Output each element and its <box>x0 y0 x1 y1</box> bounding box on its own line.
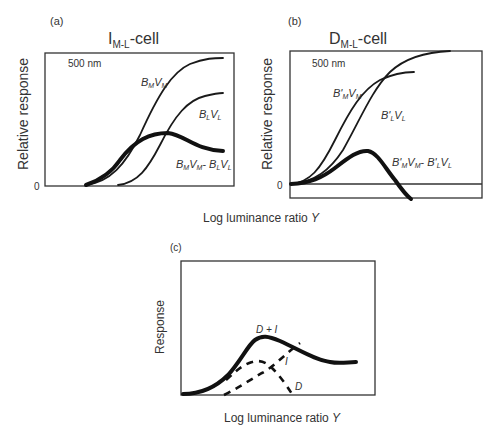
panel-b-annotation: 500 nm <box>312 58 345 69</box>
label-bm-vm: BMVM <box>141 76 168 89</box>
label-d: D <box>295 381 302 392</box>
panel-a-title: IM-L-cell <box>108 30 159 50</box>
panel-c-xlabel: Log luminance ratio Y <box>224 411 341 425</box>
label-d-plus-i: D + I <box>256 324 278 335</box>
panel-a-ytick-0: 0 <box>34 181 40 192</box>
label-bm-vm-minus-bl-vl: BMVM- BLVL <box>176 158 232 171</box>
shared-xlabel: Log luminance ratio Y <box>203 211 320 225</box>
panel-c-letter: (c) <box>170 242 182 253</box>
panel-c-ylabel: Response <box>153 300 167 354</box>
label-i: I <box>285 356 288 367</box>
panel-b-letter: (b) <box>288 15 301 27</box>
panel-a-annotation: 500 nm <box>68 58 101 69</box>
panel-a: (a) IM-L-cell 500 nm Relative response 0… <box>15 15 234 192</box>
panel-b: (b) DM-L-cell 500 nm Relative response 0… <box>259 15 482 199</box>
figure: (a) IM-L-cell 500 nm Relative response 0… <box>0 0 499 437</box>
panel-b-title: DM-L-cell <box>329 30 387 50</box>
panel-c: (c) Response D + I I D <box>153 242 375 395</box>
panel-a-ylabel: Relative response <box>15 58 31 170</box>
label-bl-vl: BLVL <box>199 108 222 121</box>
panel-a-letter: (a) <box>50 15 63 27</box>
panel-b-ytick-0: 0 <box>277 180 283 191</box>
panel-c-plot-frame <box>181 261 375 395</box>
label-bpm-vm-minus-bpl-vl: B'MVM- B'LVL <box>392 156 452 169</box>
curve-bl-vl <box>118 93 223 185</box>
label-bpm-vm: B'MVM <box>333 87 362 100</box>
curve-d-plus-i <box>183 337 356 394</box>
label-bpl-vl: B'LVL <box>381 109 406 122</box>
panel-b-ylabel: Relative response <box>259 58 275 170</box>
